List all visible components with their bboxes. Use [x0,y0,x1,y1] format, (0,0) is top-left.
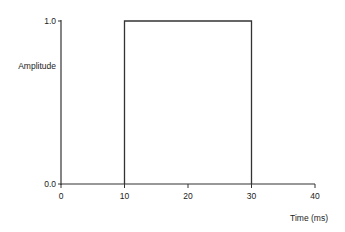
x-tick-label-30: 30 [247,191,257,201]
x-tick-label-10: 10 [120,191,130,201]
pulse-line [125,21,252,184]
x-tick-label-40: 40 [310,191,320,201]
x-axis-label: Time (ms) [290,213,328,223]
y-tick-label-1: 1.0 [44,16,56,26]
y-tick-label-0: 0.0 [44,179,56,189]
chart: 0 10 20 30 40 1.0 0.0 Amplitude Time (ms… [0,0,345,232]
x-ticks [61,184,315,188]
x-tick-label-20: 20 [183,191,193,201]
x-tick-label-0: 0 [59,191,64,201]
y-axis-label: Amplitude [18,61,56,71]
